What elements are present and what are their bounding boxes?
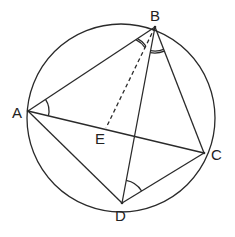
point-A: [27, 110, 30, 113]
label-A: A: [12, 104, 22, 121]
angle-mark-B-DBC-inner: [151, 49, 164, 51]
diagonal-BD: [122, 27, 155, 203]
diagonal-AC: [28, 111, 204, 153]
label-B: B: [150, 7, 160, 24]
point-D: [121, 202, 124, 205]
dashed-segment-BE: [106, 27, 155, 128]
label-C: C: [211, 146, 222, 163]
label-E: E: [95, 130, 105, 147]
geometry-diagram: A B C D E: [0, 0, 235, 237]
point-B: [154, 26, 157, 29]
label-D: D: [115, 207, 126, 224]
angle-mark-B-ABE-inner: [138, 39, 146, 46]
segment-BC: [155, 27, 204, 153]
segment-CD: [122, 153, 204, 203]
angle-mark-D: [126, 180, 141, 191]
point-C: [203, 152, 206, 155]
angle-mark-A: [46, 99, 49, 116]
